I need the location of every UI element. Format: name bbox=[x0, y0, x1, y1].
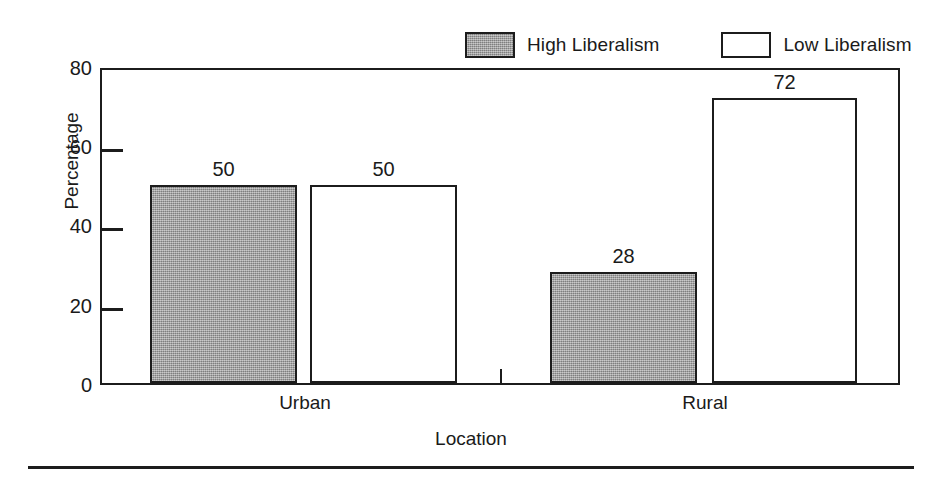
y-tick-mark-20 bbox=[102, 308, 123, 311]
legend-entry-high-liberalism: High Liberalism bbox=[465, 32, 659, 58]
bar-value-rural-low-liberalism: 72 bbox=[712, 72, 857, 92]
bar-value-urban-low-liberalism: 50 bbox=[310, 159, 457, 179]
y-tick-label-0: 0 bbox=[81, 375, 92, 395]
bar-value-rural-high-liberalism: 28 bbox=[550, 246, 697, 266]
x-category-label-urban: Urban bbox=[230, 392, 380, 414]
legend-label-high-liberalism: High Liberalism bbox=[527, 34, 659, 56]
bar-urban-high-liberalism[interactable] bbox=[150, 185, 297, 383]
bar-rural-high-liberalism[interactable] bbox=[550, 272, 697, 383]
plot-area: 50 50 28 72 bbox=[100, 68, 900, 385]
legend-entry-low-liberalism: Low Liberalism bbox=[721, 32, 911, 58]
y-tick-label-20: 20 bbox=[70, 296, 92, 316]
x-category-label-rural: Rural bbox=[630, 392, 780, 414]
x-axis-title: Location bbox=[0, 428, 942, 450]
y-axis-title: Percentage bbox=[61, 81, 83, 241]
bar-chart-figure: High Liberalism Low Liberalism 80 60 40 … bbox=[0, 0, 942, 493]
y-tick-mark-40 bbox=[102, 228, 123, 231]
legend-label-low-liberalism: Low Liberalism bbox=[783, 34, 911, 56]
bar-rural-low-liberalism[interactable] bbox=[712, 98, 857, 383]
bar-value-urban-high-liberalism: 50 bbox=[150, 159, 297, 179]
y-tick-mark-60 bbox=[102, 149, 123, 152]
page-separator-rule bbox=[28, 466, 914, 469]
x-tick-mark-group-divider bbox=[500, 369, 502, 383]
bar-urban-low-liberalism[interactable] bbox=[310, 185, 457, 383]
legend-swatch-gray-icon bbox=[465, 32, 515, 58]
chart-legend: High Liberalism Low Liberalism bbox=[465, 28, 895, 62]
legend-swatch-white-icon bbox=[721, 32, 771, 58]
y-tick-label-80: 80 bbox=[70, 58, 92, 78]
